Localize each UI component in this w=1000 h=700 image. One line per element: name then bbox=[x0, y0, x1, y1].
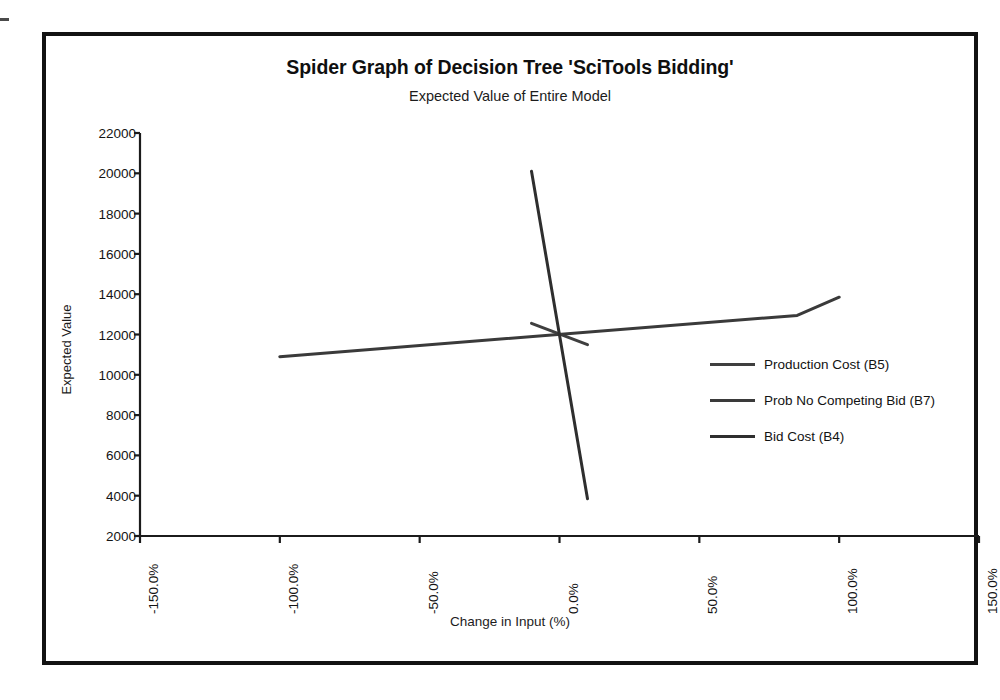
legend-line-swatch bbox=[710, 363, 755, 366]
axis-lines bbox=[134, 133, 979, 543]
chart-legend: Production Cost (B5)Prob No Competing Bi… bbox=[710, 346, 960, 454]
scan-edge-artifact bbox=[0, 18, 9, 21]
legend-item[interactable]: Production Cost (B5) bbox=[710, 346, 960, 382]
legend-item[interactable]: Prob No Competing Bid (B7) bbox=[710, 382, 960, 418]
legend-item-label: Bid Cost (B4) bbox=[764, 429, 844, 444]
legend-line-swatch bbox=[710, 435, 755, 438]
legend-line-swatch bbox=[710, 399, 755, 402]
legend-item-label: Prob No Competing Bid (B7) bbox=[764, 393, 935, 408]
legend-item[interactable]: Bid Cost (B4) bbox=[710, 418, 960, 454]
chart-frame: Spider Graph of Decision Tree 'SciTools … bbox=[42, 32, 978, 665]
legend-item-label: Production Cost (B5) bbox=[764, 357, 889, 372]
chart-canvas: Spider Graph of Decision Tree 'SciTools … bbox=[46, 36, 974, 661]
x-axis-tick-label: 150.0% bbox=[985, 568, 1000, 614]
